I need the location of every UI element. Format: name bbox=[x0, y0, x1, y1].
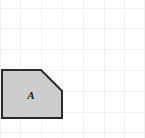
shape-layer: A bbox=[0, 0, 145, 138]
figure-canvas: A bbox=[0, 0, 145, 138]
shape-label-a: A bbox=[26, 89, 34, 101]
